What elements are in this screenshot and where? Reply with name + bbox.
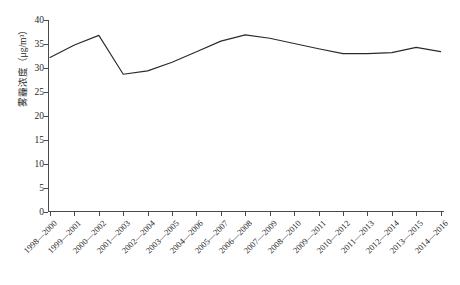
x-tick-mark [50,212,51,216]
x-tick-mark [74,212,75,216]
y-tick-mark [44,44,48,45]
x-tick-mark [343,212,344,216]
x-tick-mark [416,212,417,216]
x-tick-mark [221,212,222,216]
y-tick-mark [44,212,48,213]
y-tick-mark [44,188,48,189]
y-tick-mark [44,164,48,165]
x-tick-mark [196,212,197,216]
y-tick-mark [44,20,48,21]
x-tick-mark [172,212,173,216]
x-tick-mark [392,212,393,216]
x-tick-mark [123,212,124,216]
y-tick-mark [44,140,48,141]
y-tick-mark [44,68,48,69]
y-tick-mark [44,116,48,117]
x-tick-mark [294,212,295,216]
x-tick-mark [367,212,368,216]
y-tick-mark [44,92,48,93]
x-tick-mark [319,212,320,216]
x-tick-mark [441,212,442,216]
x-tick-mark [148,212,149,216]
x-axis-tick-labels: 1998—20001999—20012000—20022001—20032002… [0,0,460,285]
x-tick-mark [99,212,100,216]
x-tick-mark [245,212,246,216]
x-tick-mark [270,212,271,216]
haze-concentration-line-chart: 雾霾浓度（μg/m³） 0510152025303540 1998—200019… [0,0,460,285]
